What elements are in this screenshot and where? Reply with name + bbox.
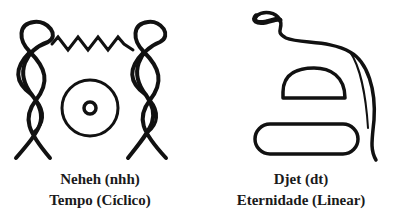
- neheh-name: Neheh (nhh): [0, 170, 200, 188]
- djet-meaning: Eternidade (Linear): [200, 191, 402, 209]
- djet-name: Djet (dt): [200, 170, 402, 188]
- neheh-meaning: Tempo (Cíclico): [0, 191, 200, 209]
- djet-panel: Djet (dt) Eternidade (Linear): [200, 0, 402, 217]
- neheh-panel: Neheh (nhh) Tempo (Cíclico): [0, 0, 200, 217]
